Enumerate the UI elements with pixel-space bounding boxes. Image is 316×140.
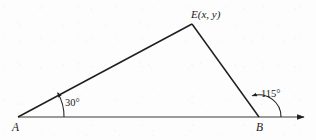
figure-canvas [0,0,316,140]
vertex-label-a: A [12,122,19,134]
vertex-label-b: B [256,122,263,134]
angle-label-b: 115° [261,89,281,100]
geometry-figure: A B E(x, y) 30° 115° [0,0,316,140]
segment-a-e [18,24,192,117]
angle-arc-a [58,93,64,117]
angle-label-a: 30° [65,98,80,109]
vertex-label-e: E(x, y) [191,9,220,20]
segment-e-b [192,24,259,117]
